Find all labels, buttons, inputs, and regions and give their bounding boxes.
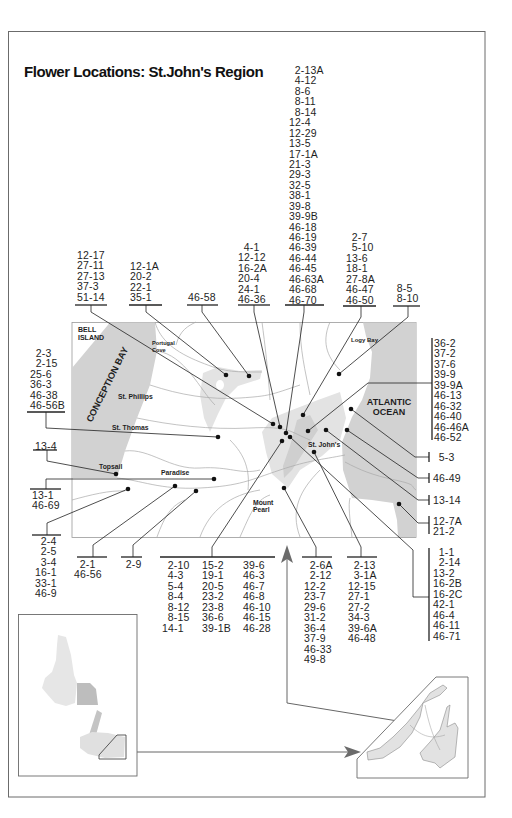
location-marker (306, 429, 311, 434)
location-code: 21-2 (433, 526, 462, 536)
location-group-13-4: 13-4 (35, 441, 57, 451)
location-code: 13-4 (35, 441, 57, 451)
label-portugal-cove-2: Cove (152, 347, 166, 353)
lake (216, 380, 224, 390)
location-code: 46-56B (30, 400, 65, 410)
location-code: 46-50 (346, 295, 375, 305)
label-mount-pearl-2: Pearl (253, 506, 270, 513)
location-marker (271, 422, 276, 427)
location-group-2-7: 2-75-1013-618-127-8A46-4746-50 (346, 232, 375, 305)
location-marker (282, 486, 287, 491)
location-marker (397, 502, 402, 507)
location-marker (312, 450, 317, 455)
location-code: 49-8 (304, 654, 333, 664)
location-code: 46-71 (433, 631, 463, 641)
location-group-13-14: 13-14 (433, 495, 461, 505)
location-group-5-3: 5-3 (433, 452, 455, 462)
location-code: 39-9B (289, 211, 324, 221)
location-code: 46-9 (35, 588, 57, 598)
location-marker (278, 425, 283, 430)
location-marker (247, 374, 252, 379)
label-st-johns: St. John's (308, 441, 340, 448)
location-marker (324, 428, 329, 433)
inset-newfoundland (19, 615, 138, 777)
location-code: 46-11 (433, 620, 463, 630)
label-portugal-cove: Portugal (152, 340, 175, 346)
location-marker (126, 487, 131, 492)
location-group-2-10-col1: 2-104-35-48-48-128-1514-1 (162, 560, 190, 633)
location-group-2-9: 2-9 (120, 559, 142, 569)
location-marker (212, 477, 217, 482)
location-code: 13-14 (433, 495, 461, 505)
label-atlantic-ocean: ATLANTIC (367, 397, 412, 407)
page: BELL ISLAND Portugal Cove CONCEPTION BAY… (0, 0, 512, 818)
location-marker (280, 439, 285, 444)
location-code: 35-1 (130, 292, 159, 302)
location-group-2-13A: 2-13A4-128-68-118-1412-412-2913-517-1A21… (289, 65, 324, 305)
location-marker (114, 472, 119, 477)
label-bell-island: BELL (78, 326, 97, 333)
location-group-2-13: 2-133-1A12-1527-127-234-339-6A46-48 (348, 560, 377, 644)
location-marker (345, 428, 350, 433)
page-title: Flower Locations: St.John's Region (24, 63, 263, 80)
location-group-2-6A: 2-6A2-1212-223-729-631-236-437-946-3349-… (304, 560, 333, 664)
location-group-12-1A: 12-1A20-222-135-1 (130, 261, 159, 303)
location-code: 14-1 (162, 623, 190, 633)
location-code: 46-58 (188, 292, 216, 302)
label-paradise: Paradise (161, 469, 190, 476)
location-code: 39-1B (202, 623, 231, 633)
location-code: 46-28 (243, 623, 271, 633)
label-st-thomas: St. Thomas (112, 424, 149, 431)
location-marker (337, 372, 342, 377)
location-group-4-1: 4-112-1216-2A20-424-146-36 (238, 242, 267, 305)
location-group-12-17: 12-1727-1127-1337-351-14 (77, 250, 105, 302)
location-code: 8-10 (391, 293, 419, 303)
label-atlantic-ocean-2: OCEAN (373, 407, 406, 417)
location-group-8-5: 8-58-10 (391, 283, 419, 304)
location-marker (216, 435, 221, 440)
location-code: 46-36 (238, 294, 267, 304)
location-group-12-7A: 12-7A21-2 (433, 516, 462, 537)
location-group-46-49: 46-49 (433, 473, 461, 483)
label-mount-pearl: Mount (253, 499, 274, 506)
location-code: 5-3 (433, 452, 455, 462)
location-code: 13-5 (289, 138, 324, 148)
location-code: 46-49 (433, 473, 461, 483)
label-st-phillips: St. Phillips (118, 393, 153, 401)
location-marker (224, 373, 229, 378)
label-bell-island-2: ISLAND (78, 334, 104, 341)
location-marker (301, 413, 306, 418)
location-code: 2-9 (120, 559, 142, 569)
location-code: 46-52 (434, 432, 469, 442)
location-group-2-1: 2-146-56 (74, 559, 102, 580)
location-marker (194, 489, 199, 494)
location-group-46-58: 46-58 (188, 292, 216, 302)
inset-avalon (357, 677, 468, 778)
location-code: 46-69 (32, 500, 60, 510)
location-group-1-1: 1-12-1413-216-2B16-2C42-146-446-1146-71 (433, 547, 463, 641)
location-code: 37-9 (304, 633, 333, 643)
location-group-2-4: 2-42-53-416-133-146-9 (35, 536, 57, 599)
location-marker (173, 484, 178, 489)
location-group-2-10-col3: 39-646-346-746-846-1046-1546-28 (243, 560, 271, 633)
location-group-36-2: 36-237-237-639-939-9A46-1346-3246-4046-4… (434, 338, 469, 442)
location-code: 46-40 (434, 411, 469, 421)
location-marker (288, 435, 293, 440)
location-group-13-1: 13-146-69 (32, 490, 60, 511)
location-code: 46-48 (348, 633, 377, 643)
location-group-2-3: 2-32-1525-636-346-3846-56B (30, 348, 65, 411)
location-code: 46-56 (74, 569, 102, 579)
location-marker (349, 407, 354, 412)
location-group-2-10-col2: 15-219-120-523-223-836-639-1B (202, 560, 231, 633)
location-marker (284, 431, 289, 436)
label-logy-bay: Logy Bay (351, 337, 379, 343)
location-code: 46-70 (289, 295, 324, 305)
location-code: 51-14 (77, 292, 105, 302)
label-topsail: Topsail (99, 463, 122, 471)
